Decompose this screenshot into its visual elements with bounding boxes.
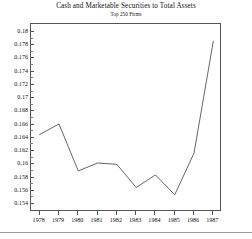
y-axis-tick: [30, 71, 34, 72]
y-axis-tick: [30, 137, 34, 138]
y-axis-minor-tick: [30, 117, 33, 118]
y-axis-tick: [30, 84, 34, 85]
x-axis-tick: [212, 211, 213, 215]
y-axis-minor-tick: [30, 183, 33, 184]
x-axis-tick: [116, 211, 117, 215]
y-axis-tick: [30, 124, 34, 125]
y-axis-label: 0.16: [17, 160, 28, 166]
chart-title: Cash and Marketable Securities to Total …: [0, 2, 252, 11]
y-axis-minor-tick: [30, 51, 33, 52]
chart-subtitle: Top 250 Firms: [0, 11, 252, 18]
x-axis-tick: [174, 211, 175, 215]
data-line-svg: [31, 24, 222, 212]
y-axis-tick: [30, 190, 34, 191]
y-axis-label: 0.168: [14, 107, 28, 113]
y-axis-label: 0.172: [14, 81, 28, 87]
chart-figure: Cash and Marketable Securities to Total …: [0, 0, 252, 239]
y-axis-tick: [30, 57, 34, 58]
y-axis-minor-tick: [30, 143, 33, 144]
series-line: [40, 41, 214, 195]
y-axis-label: 0.164: [14, 134, 28, 140]
y-axis-label: 0.162: [14, 147, 28, 153]
x-axis-tick: [154, 211, 155, 215]
y-axis-label: 0.154: [14, 200, 28, 206]
y-axis-minor-tick: [30, 130, 33, 131]
y-axis-label: 0.176: [14, 54, 28, 60]
y-axis-label: 0.156: [14, 187, 28, 193]
x-axis-label: 1987: [197, 217, 227, 224]
y-axis-label: 0.178: [14, 41, 28, 47]
x-axis-tick: [58, 211, 59, 215]
y-axis-tick: [30, 150, 34, 151]
y-axis-label: 0.158: [14, 174, 28, 180]
y-axis-label: 0.174: [14, 68, 28, 74]
x-axis-tick: [193, 211, 194, 215]
y-axis-tick: [30, 163, 34, 164]
y-axis-tick: [30, 31, 34, 32]
y-axis-minor-tick: [30, 77, 33, 78]
y-axis-minor-tick: [30, 196, 33, 197]
y-axis-minor-tick: [30, 170, 33, 171]
y-axis-minor-tick: [30, 64, 33, 65]
y-axis-label: 0.166: [14, 121, 28, 127]
y-axis-tick: [30, 203, 34, 204]
y-axis-minor-tick: [30, 91, 33, 92]
title-block: Cash and Marketable Securities to Total …: [0, 2, 252, 18]
y-axis-tick: [30, 110, 34, 111]
y-axis-minor-tick: [30, 157, 33, 158]
y-axis-tick: [30, 44, 34, 45]
y-axis-label: 0.17: [17, 94, 28, 100]
page-divider: [0, 232, 252, 233]
plot-area: [30, 23, 221, 211]
y-axis-tick: [30, 177, 34, 178]
x-axis-tick: [135, 211, 136, 215]
y-axis-tick: [30, 97, 34, 98]
y-axis-minor-tick: [30, 38, 33, 39]
y-axis-minor-tick: [30, 104, 33, 105]
y-axis-label: 0.18: [17, 28, 28, 34]
x-axis-tick: [97, 211, 98, 215]
x-axis-tick: [77, 211, 78, 215]
x-axis-tick: [39, 211, 40, 215]
